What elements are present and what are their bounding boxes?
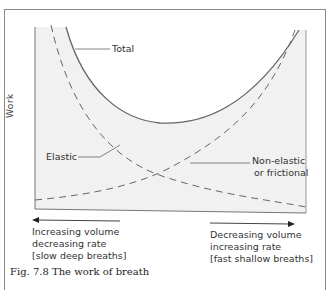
x-left-description: Increasing volume decreasing rate [slow … [32,226,126,262]
nonelastic-label: Non-elastic or frictional [252,155,309,179]
x-left-line1: Increasing volume [32,226,126,238]
x-left-line3: [slow deep breaths] [32,250,126,262]
y-axis-label: Work [5,93,15,118]
figure-caption: Fig. 7.8 The work of breath [10,266,149,277]
left-arrow-head [32,217,39,223]
total-label: Total [112,43,134,54]
nonelastic-label-line1: Non-elastic [252,155,309,167]
nonelastic-label-line2: or frictional [252,167,309,179]
right-arrow-head [288,221,295,227]
right-arrow-shaft [210,223,291,224]
x-right-description: Decreasing volume increasing rate [fast … [210,229,313,265]
elastic-label: Elastic [46,151,77,162]
x-left-line2: decreasing rate [32,238,126,250]
x-right-line2: increasing rate [210,241,313,253]
x-right-line1: Decreasing volume [210,229,313,241]
x-right-line3: [fast shallow breaths] [210,253,313,265]
left-arrow-shaft [36,220,120,221]
